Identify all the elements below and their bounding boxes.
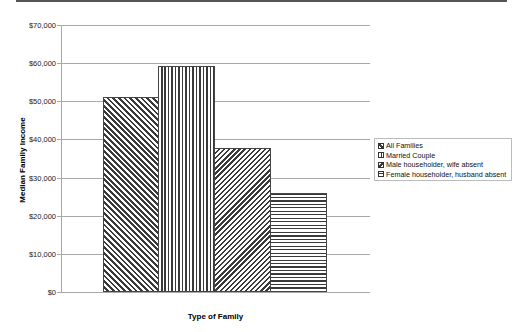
y-tick-label: $40,000 xyxy=(29,135,56,144)
y-tick-mark xyxy=(57,254,61,255)
y-tick-mark xyxy=(57,25,61,26)
legend-item: Male householder, wife absent xyxy=(378,160,508,170)
y-tick-label: $10,000 xyxy=(29,249,56,258)
y-tick-label: $20,000 xyxy=(29,211,56,220)
bar-male-householder-wife-absent xyxy=(214,148,271,292)
y-axis-title: Median Family Income xyxy=(18,117,27,202)
y-tick-label: $70,000 xyxy=(29,21,56,30)
y-tick-mark xyxy=(57,63,61,64)
gridline xyxy=(61,63,370,64)
y-tick-mark xyxy=(57,292,61,293)
legend-label: Male householder, wife absent xyxy=(386,160,483,169)
bar-married-couple xyxy=(158,66,215,292)
y-tick-label: $50,000 xyxy=(29,97,56,106)
y-tick-mark xyxy=(57,101,61,102)
y-tick-label: $30,000 xyxy=(29,173,56,182)
legend-item: Married Couple xyxy=(378,151,508,161)
top-border-line xyxy=(16,0,507,2)
legend-label: All Families xyxy=(386,141,423,150)
legend-item: All Families xyxy=(378,141,508,151)
y-tick-mark xyxy=(57,178,61,179)
legend-swatch-icon xyxy=(378,143,384,149)
gridline xyxy=(61,25,370,26)
y-axis-line xyxy=(61,25,62,292)
gridline xyxy=(61,292,370,293)
legend-swatch-icon xyxy=(378,152,384,158)
bar-all-families xyxy=(103,97,160,292)
chart-legend: All FamiliesMarried CoupleMale household… xyxy=(374,138,512,181)
legend-label: Female householder, husband absent xyxy=(386,170,506,179)
plot-area xyxy=(61,25,370,292)
x-axis-title: Type of Family xyxy=(61,312,370,321)
bar-female-householder-husband-absent xyxy=(270,193,327,292)
y-tick-mark xyxy=(57,139,61,140)
legend-swatch-icon xyxy=(378,171,384,177)
y-tick-label: $0 xyxy=(48,288,56,297)
y-tick-label: $60,000 xyxy=(29,59,56,68)
y-axis-title-container: Median Family Income xyxy=(12,90,32,230)
legend-item: Female householder, husband absent xyxy=(378,170,508,180)
legend-swatch-icon xyxy=(378,162,384,168)
y-tick-mark xyxy=(57,216,61,217)
legend-label: Married Couple xyxy=(386,151,435,160)
